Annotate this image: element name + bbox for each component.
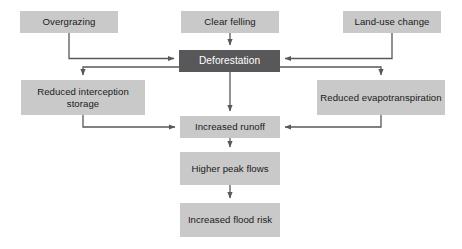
node-reduced_evapotranspiration[interactable]: Reduced evapotranspiration xyxy=(317,80,445,115)
edge-overgrazing-to-deforestation xyxy=(69,33,174,59)
node-land_use_change[interactable]: Land-use change xyxy=(343,11,441,33)
edge-reduced-interception-to-increased-runoff xyxy=(83,115,175,127)
node-label-land_use_change: Land-use change xyxy=(346,16,438,28)
node-label-reduced_interception_storage: Reduced interception storage xyxy=(24,86,142,110)
node-label-higher_peak_flows: Higher peak flows xyxy=(183,163,277,175)
node-increased_runoff[interactable]: Increased runoff xyxy=(180,116,280,138)
node-label-clear_felling: Clear felling xyxy=(184,16,276,28)
node-label-overgrazing: Overgrazing xyxy=(23,16,115,28)
node-higher_peak_flows[interactable]: Higher peak flows xyxy=(180,152,280,185)
node-label-increased_flood_risk: Increased flood risk xyxy=(183,214,277,226)
node-overgrazing[interactable]: Overgrazing xyxy=(20,11,118,33)
node-reduced_interception_storage[interactable]: Reduced interception storage xyxy=(21,80,145,115)
node-increased_flood_risk[interactable]: Increased flood risk xyxy=(180,203,280,237)
edge-reduced-evapotranspiration-to-increased-runoff xyxy=(285,115,381,127)
node-deforestation[interactable]: Deforestation xyxy=(179,50,280,72)
node-label-deforestation: Deforestation xyxy=(182,55,277,67)
edge-deforestation-to-reduced-interception xyxy=(83,67,179,75)
node-clear_felling[interactable]: Clear felling xyxy=(181,11,279,33)
edge-deforestation-to-reduced-evapotranspiration xyxy=(280,67,381,75)
edge-land-use-change-to-deforestation xyxy=(285,33,392,59)
node-label-increased_runoff: Increased runoff xyxy=(183,121,277,133)
flowchart-diagram: OvergrazingClear fellingLand-use changeD… xyxy=(0,0,462,249)
node-label-reduced_evapotranspiration: Reduced evapotranspiration xyxy=(320,92,442,104)
